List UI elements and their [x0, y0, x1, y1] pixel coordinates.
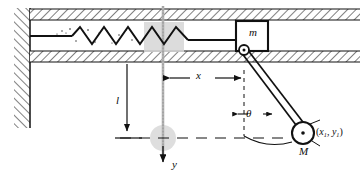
physics-diagram: m M l x y θ (x1, y1) [0, 0, 360, 183]
bob-coord-y-sub: 1 [336, 131, 339, 138]
bob-mass-label: M [299, 146, 308, 157]
pivot-joint [239, 45, 249, 55]
cart-mass-label: m [249, 27, 257, 38]
bob-coord-x-sub: 1 [324, 131, 327, 138]
top-channel-wall [30, 9, 360, 20]
length-label-l: l [116, 95, 119, 106]
vertical-axis-label-y: y [172, 159, 177, 170]
left-wall [14, 8, 30, 128]
displacement-label-x: x [196, 70, 201, 81]
angle-label-theta: θ [246, 108, 251, 119]
bottom-channel-wall [30, 51, 360, 62]
bob-coordinates-label: (x1, y1) [316, 127, 343, 137]
spring [30, 27, 236, 44]
